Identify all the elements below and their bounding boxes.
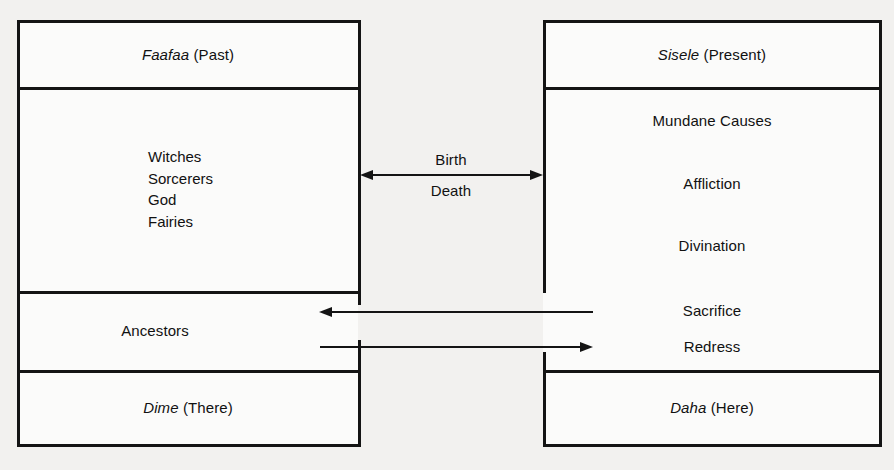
birth-label: Birth: [435, 150, 466, 169]
right-box-footer: Daha (Here): [670, 398, 754, 417]
left-box-divider-header: [17, 87, 361, 90]
left-box-ancestors-label: Ancestors: [121, 321, 189, 340]
list-item: God: [148, 189, 213, 211]
right-box-footer-gloss: (Here): [711, 399, 754, 416]
right-box-item-divination: Divination: [679, 236, 746, 255]
right-box-right-border: [879, 20, 882, 447]
right-box-item-mundane-causes: Mundane Causes: [653, 111, 772, 130]
right-box-fill: [543, 20, 882, 447]
left-box-divider-ancestors-bottom: [17, 370, 361, 373]
left-box-footer: Dime (There): [143, 398, 233, 417]
left-box-footer-term: Dime: [143, 399, 178, 416]
birth-death-arrowhead-left: [360, 170, 373, 180]
right-box-header: Sisele (Present): [658, 45, 766, 64]
left-box-beings-list: Witches Sorcerers God Fairies: [148, 146, 213, 232]
right-box-item-affliction: Affliction: [683, 174, 740, 193]
list-item: Sorcerers: [148, 168, 213, 190]
birth-death-arrow-shaft: [364, 174, 538, 176]
diagram-canvas: Faafaa (Past) Witches Sorcerers God Fair…: [0, 0, 894, 470]
right-box-header-term: Sisele: [658, 46, 699, 63]
left-box-divider-ancestors-top: [17, 291, 361, 294]
right-box-bottom-border: [543, 444, 882, 447]
left-box-header: Faafaa (Past): [142, 45, 234, 64]
arrow-to-present-head: [580, 342, 593, 352]
left-box-bottom-border: [17, 444, 361, 447]
arrow-to-past-head: [319, 307, 332, 317]
death-label: Death: [431, 181, 472, 200]
list-item: Fairies: [148, 211, 213, 233]
list-item: Witches: [148, 146, 213, 168]
left-box-top-border: [17, 20, 361, 23]
right-box-left-border-upper: [543, 20, 546, 293]
right-box-left-border-lower: [543, 352, 546, 447]
left-box-header-gloss: (Past): [193, 46, 234, 63]
arrow-to-past-shaft: [331, 311, 593, 313]
left-box-header-term: Faafaa: [142, 46, 189, 63]
left-box-right-border-upper: [358, 20, 361, 305]
left-box-fill: [17, 20, 358, 447]
left-box-right-border-lower: [358, 340, 361, 447]
right-box-item-redress: Redress: [684, 337, 741, 356]
right-box-top-border: [543, 20, 882, 23]
right-box-divider-footer: [543, 370, 882, 373]
birth-death-arrowhead-right: [530, 170, 543, 180]
left-box-left-border: [17, 20, 20, 447]
right-box-footer-term: Daha: [670, 399, 706, 416]
right-box-divider-header: [543, 87, 882, 90]
right-box-header-gloss: (Present): [704, 46, 767, 63]
left-box-footer-gloss: (There): [183, 399, 233, 416]
arrow-to-present-shaft: [320, 346, 582, 348]
right-box-item-sacrifice: Sacrifice: [683, 301, 741, 320]
